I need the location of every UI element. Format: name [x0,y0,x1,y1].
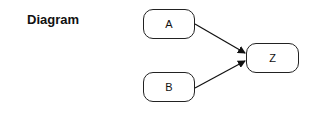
node-a: A [143,9,195,39]
node-b-label: B [165,81,172,93]
edge-b-to-z [195,61,245,88]
node-z: Z [246,43,299,73]
edge-a-to-z [195,24,245,53]
node-z-label: Z [269,52,276,64]
node-b: B [143,72,195,102]
node-a-label: A [165,18,172,30]
